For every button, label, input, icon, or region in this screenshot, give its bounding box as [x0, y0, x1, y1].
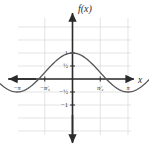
x-axis-title: x	[137, 75, 143, 85]
x-tick-label: π⁄₂	[97, 84, 103, 91]
y-axis-title: f(x)	[78, 3, 93, 15]
y-tick-label: ½	[63, 62, 68, 69]
graph-figure: −2π−³⁄₂π−π−π⁄₂π⁄₂π³⁄₂π2π 1½−½−1 f(x) x	[0, 0, 149, 148]
y-tick-label: −1	[61, 101, 68, 108]
figure-background	[0, 0, 149, 148]
coordinate-plane: −2π−³⁄₂π−π−π⁄₂π⁄₂π³⁄₂π2π 1½−½−1 f(x) x	[0, 0, 149, 148]
x-tick-label: −π	[13, 84, 21, 91]
x-tick-label: −π⁄₂	[40, 84, 50, 91]
y-tick-label: −½	[60, 88, 69, 95]
